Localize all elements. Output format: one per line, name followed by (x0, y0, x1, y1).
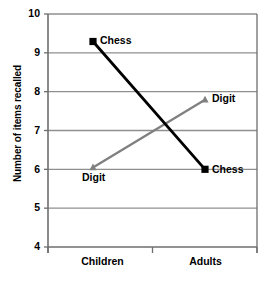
x-tick-label-adults: Adults (178, 255, 233, 267)
label-chess-adults: Chess (212, 163, 244, 175)
line-chart: Number of items recalled 10 9 8 7 6 5 4 … (0, 0, 275, 281)
chess-marker-children (89, 38, 96, 45)
y-tick-label-10: 10 (18, 8, 40, 19)
chart-plot-area (0, 0, 275, 281)
y-tick-label-4: 4 (18, 241, 40, 252)
label-digit-children: Digit (82, 171, 105, 183)
y-tick-label-7: 7 (18, 125, 40, 136)
label-chess-children: Chess (100, 34, 132, 46)
x-axis-ticks (48, 247, 257, 253)
chess-marker-adults (201, 166, 208, 173)
label-digit-adults: Digit (212, 92, 235, 104)
x-tick-label-children: Children (70, 255, 135, 267)
y-tick-label-6: 6 (18, 164, 40, 175)
y-tick-label-8: 8 (18, 86, 40, 97)
y-axis-title: Number of items recalled (12, 39, 23, 209)
y-tick-label-5: 5 (18, 202, 40, 213)
y-tick-label-9: 9 (18, 47, 40, 58)
